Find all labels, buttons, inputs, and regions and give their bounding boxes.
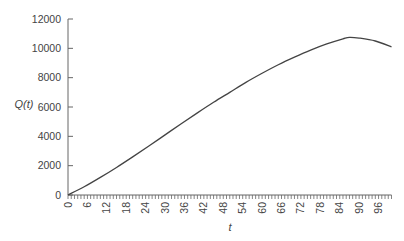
line-chart: 020004000600080001000012000 061218243036… [0,0,404,241]
y-tick-label: 6000 [38,101,62,113]
x-tick-label: 72 [294,202,306,214]
x-axis-title: t [228,221,232,233]
x-tick-label: 30 [159,202,171,214]
x-tick-label: 84 [333,202,345,214]
y-axis: 020004000600080001000012000 [32,13,73,201]
y-tick-label: 10000 [32,42,61,54]
y-tick-label: 8000 [38,71,62,83]
y-tick-label: 12000 [32,13,61,25]
x-tick-label: 24 [139,202,151,214]
data-series [68,37,392,195]
y-tick-label: 0 [55,189,61,201]
x-tick-label: 42 [197,202,209,214]
x-tick-label: 0 [62,202,74,208]
x-tick-label: 90 [353,202,365,214]
x-tick-label: 66 [275,202,287,214]
x-tick-label: 48 [217,202,229,214]
y-axis-title: Q(t) [15,98,34,110]
x-tick-label: 6 [81,202,93,208]
series-line [68,37,392,195]
x-axis: 06121824303642485460667278849096 [62,195,392,214]
x-tick-label: 18 [120,202,132,214]
x-tick-label: 54 [236,202,248,214]
x-tick-label: 78 [314,202,326,214]
x-tick-label: 12 [100,202,112,214]
x-tick-label: 96 [372,202,384,214]
y-tick-label: 4000 [38,130,62,142]
y-tick-label: 2000 [38,159,62,171]
x-tick-label: 60 [256,202,268,214]
x-tick-label: 36 [178,202,190,214]
